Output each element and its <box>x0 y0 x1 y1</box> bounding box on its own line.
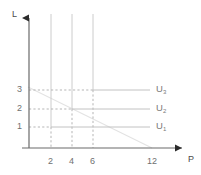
x-tick-6: 6 <box>90 157 95 166</box>
curve-label-u1-sub: 1 <box>163 126 166 132</box>
budget-line <box>28 87 152 148</box>
curve-label-u2-sub: 2 <box>163 108 166 114</box>
curve-label-u1: U1 <box>156 121 166 131</box>
indifference-curve-chart: L P 3 2 1 2 4 6 12 U3 U2 U1 <box>0 0 201 175</box>
y-tick-3: 3 <box>17 85 22 94</box>
y-axis-label: L <box>12 10 17 19</box>
curve-label-u3: U3 <box>156 84 166 94</box>
y-tick-1: 1 <box>17 122 22 131</box>
curve-label-u3-sub: 3 <box>163 89 166 95</box>
curve-label-u3-base: U <box>156 83 163 94</box>
x-axis-label: P <box>188 155 194 164</box>
y-tick-2: 2 <box>17 104 22 113</box>
curve-label-u2: U2 <box>156 103 166 113</box>
x-tick-2: 2 <box>48 157 53 166</box>
chart-canvas <box>0 0 201 175</box>
curve-label-u1-base: U <box>156 120 163 131</box>
x-tick-12: 12 <box>147 157 157 166</box>
x-tick-4: 4 <box>69 157 74 166</box>
curve-label-u2-base: U <box>156 102 163 113</box>
